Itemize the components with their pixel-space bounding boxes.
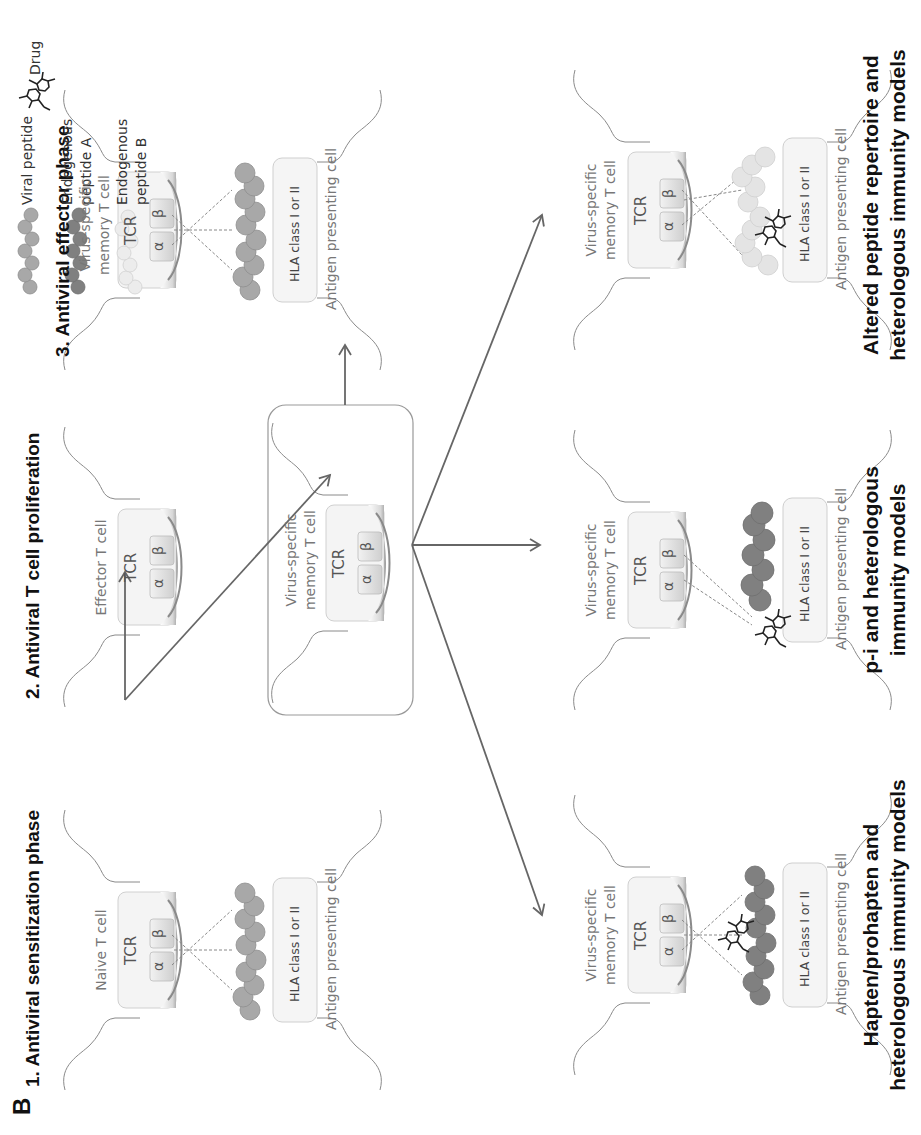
- legend-drug-label: Drug: [26, 41, 45, 75]
- alpha-label: α: [660, 222, 676, 231]
- beta-label: β: [150, 929, 166, 938]
- legend-endogenous-b-line2: peptide B: [132, 119, 151, 205]
- legend-viral-peptide-icon: [18, 208, 39, 294]
- beta-label: β: [358, 542, 374, 551]
- legend-viral-peptide-label: Viral peptide: [18, 116, 37, 205]
- alpha-label: α: [660, 582, 676, 591]
- effector-t-cell-label: Effector T cell: [92, 505, 111, 630]
- tcr-label: TCR: [122, 216, 140, 245]
- alpha-label: α: [150, 579, 166, 588]
- memory-label-line1: Virus-specific: [76, 165, 95, 285]
- apc-label: Antigen presenting cell: [832, 130, 851, 290]
- beta-label: β: [660, 189, 676, 198]
- tcr-label: TCR: [632, 196, 650, 225]
- memory-label-line2: memory T cell: [601, 150, 620, 270]
- tcr-label: TCR: [330, 549, 348, 578]
- tcr-label: TCR: [632, 556, 650, 585]
- tcr-label: TCR: [632, 921, 650, 950]
- memory-t-cell-label: Virus-specific memory T cell: [582, 510, 620, 630]
- memory-t-cell-label: Virus-specific memory T cell: [582, 875, 620, 995]
- apc-label: Antigen presenting cell: [322, 150, 341, 310]
- hapten-title-line2: heterologous immunity models: [884, 765, 911, 1105]
- pi-title-line1: p-i and heterologous: [857, 425, 884, 715]
- beta-label: β: [150, 546, 166, 555]
- beta-label: β: [660, 914, 676, 923]
- memory-label-line1: Virus-specific: [582, 510, 601, 630]
- tcr-label: TCR: [122, 936, 140, 965]
- legend-drug-icon: [19, 72, 55, 110]
- memory-label-line1: Virus-specific: [582, 150, 601, 270]
- viral-peptide-chain: [233, 883, 266, 1020]
- beta-label: β: [660, 549, 676, 558]
- memory-label-line2: memory T cell: [301, 500, 320, 620]
- apc-label: Antigen presenting cell: [322, 870, 341, 1030]
- altered-title-line1: Altered peptide repertoire and: [857, 30, 884, 380]
- apc-label: Antigen presenting cell: [832, 855, 851, 1015]
- panel-letter: B: [8, 1098, 36, 1115]
- legend-endogenous-b-label: Endogenous peptide B: [113, 119, 151, 205]
- memory-t-cell-label: Virus-specific memory T cell: [76, 165, 114, 285]
- hapten-model-title: Hapten/prohapten and heterologous immuni…: [857, 765, 911, 1105]
- arrow-to-altered: [412, 215, 542, 545]
- pi-model-title: p-i and heterologous immunity models: [857, 425, 911, 715]
- alpha-label: α: [660, 947, 676, 956]
- altered-title-line2: heterologous immunity models: [884, 30, 911, 380]
- hla-label: HLA class I or II: [287, 906, 302, 1002]
- beta-label: β: [150, 209, 166, 218]
- legend-endogenous-b-line1: Endogenous: [113, 119, 132, 205]
- memory-t-cell-label: Virus-specific memory T cell: [282, 500, 320, 620]
- arrow-to-hapten: [412, 545, 542, 915]
- apc-label: Antigen presenting cell: [832, 490, 851, 650]
- figure-canvas: B 1. Antiviral sensitization phase 2. An…: [0, 0, 921, 1135]
- hla-label: HLA class I or II: [287, 186, 302, 282]
- naive-t-cell-label: Naive T cell: [92, 890, 111, 1010]
- memory-label-line1: Virus-specific: [282, 500, 301, 620]
- memory-t-cell-label: Virus-specific memory T cell: [582, 150, 620, 270]
- alpha-label: α: [150, 962, 166, 971]
- hla-label: HLA class I or II: [797, 166, 812, 262]
- alpha-label: α: [358, 575, 374, 584]
- memory-label-line2: memory T cell: [601, 510, 620, 630]
- alpha-label: α: [150, 242, 166, 251]
- hapten-title-line1: Hapten/prohapten and: [857, 765, 884, 1105]
- memory-label-line1: Virus-specific: [582, 875, 601, 995]
- memory-label-line2: memory T cell: [95, 165, 114, 285]
- phase-2-title: 2. Antiviral T cell proliferation: [22, 433, 44, 699]
- pi-title-line2: immunity models: [884, 425, 911, 715]
- tcr-label: TCR: [122, 553, 140, 582]
- legend-endogenous-a-line1: Endogenous: [58, 119, 77, 205]
- phase-1-title: 1. Antiviral sensitization phase: [22, 810, 44, 1087]
- memory-label-line2: memory T cell: [601, 875, 620, 995]
- hla-label: HLA class I or II: [797, 526, 812, 622]
- hla-label: HLA class I or II: [797, 891, 812, 987]
- altered-model-title: Altered peptide repertoire and heterolog…: [857, 30, 911, 380]
